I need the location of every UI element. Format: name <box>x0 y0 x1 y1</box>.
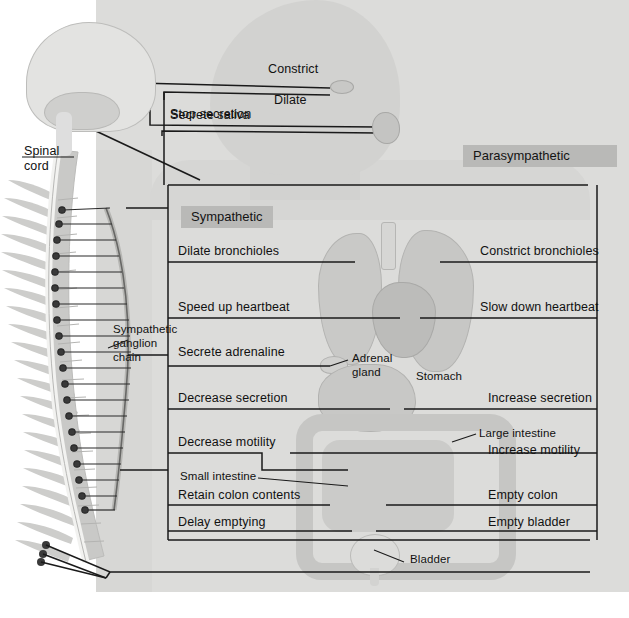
eye <box>330 80 354 94</box>
salivary-gland <box>372 112 400 144</box>
effect-sympathetic-adrenal-gland: Secrete adrenaline <box>178 345 285 359</box>
effect-sympathetic-heart: Speed up heartbeat <box>178 300 290 314</box>
line-sacral-outflow-c <box>41 562 106 578</box>
effect-sympathetic-bladder: Delay emptying <box>178 515 266 529</box>
line-medulla-to-sympathetic <box>81 124 200 180</box>
line-sacral-outflow-a <box>46 545 590 572</box>
pointer-small-intestine <box>258 478 348 486</box>
label-spinal-cord-line2: cord <box>24 159 49 173</box>
effect-parasympathetic-colon: Empty colon <box>488 488 558 502</box>
effect-parasympathetic-bladder: Empty bladder <box>488 515 570 529</box>
effect-sympathetic-bronchioles: Dilate bronchioles <box>178 244 279 258</box>
label-small-intestine: Small intestine <box>180 470 256 482</box>
pointer-large-intestine <box>452 434 476 442</box>
effect-sympathetic-intestine: Decrease motility <box>178 435 276 449</box>
effect-sympathetic-stomach: Decrease secretion <box>178 391 288 405</box>
label-ganglion-chain-line3: chain <box>113 351 141 363</box>
effect-sympathetic-eye: Dilate <box>274 93 307 107</box>
effect-parasympathetic-intestine: Increase motility <box>488 443 580 457</box>
pointer-bladder <box>374 550 404 562</box>
label-bladder: Bladder <box>410 553 450 565</box>
effect-parasympathetic-heart: Slow down heartbeat <box>480 300 599 314</box>
line-stop-secretion <box>162 131 378 136</box>
pointer-adrenal-gland <box>330 360 348 366</box>
label-spinal-cord-line1: Spinal <box>24 144 59 158</box>
line-decrease-motility <box>168 453 348 470</box>
label-ganglion-chain-line1: Sympathetic <box>113 323 177 335</box>
autonomic-nervous-system-figure: Sympathetic Parasympathetic Spinal cord … <box>0 0 629 618</box>
label-adrenal-gland-line1: Adrenal <box>352 352 392 364</box>
label-adrenal-gland-line2: gland <box>352 366 381 378</box>
banner-parasympathetic: Parasympathetic <box>463 145 617 167</box>
label-ganglion-chain-line2: ganglion <box>113 337 157 349</box>
label-large-intestine: Large intestine <box>479 427 556 439</box>
effect-parasympathetic-salivary-gland: Secrete saliva <box>170 108 250 122</box>
effect-parasympathetic-stomach: Increase secretion <box>488 391 592 405</box>
effect-sympathetic-colon: Retain colon contents <box>178 488 300 502</box>
label-stomach: Stomach <box>416 370 462 382</box>
effect-parasympathetic-eye: Constrict <box>268 62 318 76</box>
line-sacral-bracket <box>106 572 110 578</box>
effect-parasympathetic-bronchioles: Constrict bronchioles <box>480 244 599 258</box>
banner-sympathetic: Sympathetic <box>181 206 273 228</box>
